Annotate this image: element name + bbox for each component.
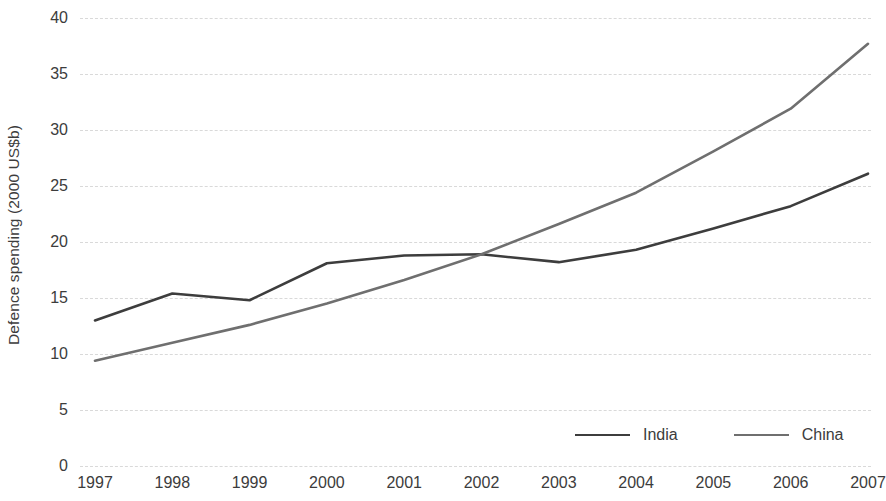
x-axis-tick-label: 2003 — [541, 474, 577, 492]
y-axis-tick-label: 35 — [22, 65, 68, 83]
plot-area — [80, 18, 871, 466]
x-axis-tick-label: 2001 — [386, 474, 422, 492]
legend-line-swatch — [575, 434, 630, 436]
y-axis-tick-label: 30 — [22, 121, 68, 139]
chart-legend: IndiaChina — [575, 424, 844, 446]
legend-item-china[interactable]: China — [734, 426, 844, 444]
x-axis-tick-label: 2006 — [773, 474, 809, 492]
series-line-india — [95, 174, 868, 321]
x-axis-tick-label: 2002 — [464, 474, 500, 492]
x-axis-tick-label: 1999 — [232, 474, 268, 492]
legend-item-india[interactable]: India — [575, 426, 678, 444]
x-axis-tick-label: 2004 — [618, 474, 654, 492]
y-axis-tick-label: 10 — [22, 345, 68, 363]
y-axis-tick-label: 20 — [22, 233, 68, 251]
series-lines — [80, 18, 871, 466]
x-axis-tick-labels: 1997199819992000200120022003200420052006… — [0, 474, 871, 501]
legend-label: China — [802, 426, 844, 444]
gridline — [80, 466, 871, 467]
y-axis-tick-label: 40 — [22, 9, 68, 27]
x-axis-tick-label: 1997 — [77, 474, 113, 492]
legend-line-swatch — [734, 434, 789, 436]
series-line-china — [95, 44, 868, 361]
legend-label: India — [643, 426, 678, 444]
y-axis-tick-label: 5 — [22, 401, 68, 419]
y-axis-tick-labels: 0510152025303540 — [22, 18, 68, 466]
x-axis-tick-label: 2005 — [696, 474, 732, 492]
y-axis-title-text: Defence spending (2000 US$b) — [5, 125, 23, 345]
x-axis-tick-label: 2000 — [309, 474, 345, 492]
y-axis-tick-label: 0 — [22, 457, 68, 475]
x-axis-tick-label: 1998 — [155, 474, 191, 492]
y-axis-tick-label: 15 — [22, 289, 68, 307]
y-axis-tick-label: 25 — [22, 177, 68, 195]
x-axis-tick-label: 2007 — [850, 474, 886, 492]
